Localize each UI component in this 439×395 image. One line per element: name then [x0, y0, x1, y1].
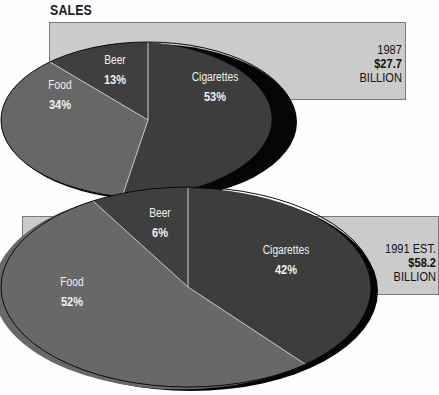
- slice-label-food-1991: Food 52%: [55, 272, 89, 312]
- amount-label: $58.2: [385, 256, 436, 270]
- slice-label-food-1987: Food 34%: [43, 75, 77, 115]
- slice-label-cigarettes-1987: Cigarettes 53%: [181, 67, 249, 107]
- year-label: 1991 EST.: [385, 242, 436, 256]
- unit-label: BILLION: [385, 270, 436, 284]
- total-label-1991: 1991 EST. $58.2 BILLION: [385, 242, 436, 284]
- slice-label-cigarettes-1991: Cigarettes 42%: [252, 240, 320, 280]
- slice-label-beer-1987: Beer 13%: [98, 50, 132, 90]
- slice-label-beer-1991: Beer 6%: [143, 203, 177, 243]
